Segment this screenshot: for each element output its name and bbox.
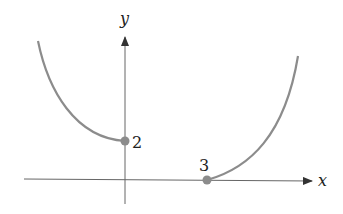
x-axis-label: x — [318, 171, 327, 190]
right-branch-curve — [207, 56, 298, 180]
point-3-0 — [203, 176, 212, 185]
point-0-2 — [121, 137, 130, 146]
y-axis-label: y — [119, 9, 130, 28]
function-graph: 2 3 x y — [0, 0, 343, 214]
point-label-3: 3 — [199, 156, 209, 175]
point-label-2: 2 — [132, 133, 142, 152]
left-branch-curve — [38, 41, 125, 141]
x-axis — [24, 179, 312, 181]
